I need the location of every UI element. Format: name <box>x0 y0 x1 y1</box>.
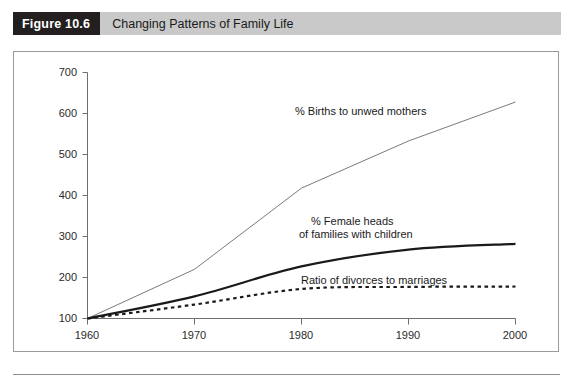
y-tick-label-300: 300 <box>59 230 77 242</box>
x-tick-label-2000: 2000 <box>503 329 527 341</box>
series-annotation-female-heads-line1: % Female heads <box>311 215 394 227</box>
figure-caption-title: Changing Patterns of Family Life <box>100 12 293 35</box>
x-axis-ticks <box>88 319 516 325</box>
footer-rule <box>13 374 560 375</box>
series-annotation-female-heads-line2: of families with children <box>299 228 413 240</box>
y-tick-label-500: 500 <box>59 148 77 160</box>
figure-number-tag: Figure 10.6 <box>13 12 100 35</box>
figure-caption-bar: Figure 10.6 Changing Patterns of Family … <box>13 12 561 35</box>
series-annotation-unwed-mothers: % Births to unwed mothers <box>295 105 427 117</box>
y-tick-label-400: 400 <box>59 189 77 201</box>
x-tick-label-1980: 1980 <box>289 329 313 341</box>
series-annotation-divorce-ratio: Ratio of divorces to marriages <box>301 274 448 286</box>
line-chart: 700 600 500 400 300 200 100 1960 1970 19… <box>14 52 558 351</box>
x-tick-label-1990: 1990 <box>396 329 420 341</box>
y-tick-label-600: 600 <box>59 107 77 119</box>
chart-frame: 700 600 500 400 300 200 100 1960 1970 19… <box>13 51 559 352</box>
y-axis-ticks <box>83 73 88 319</box>
x-tick-label-1970: 1970 <box>182 329 206 341</box>
x-tick-label-1960: 1960 <box>75 329 99 341</box>
y-tick-label-100: 100 <box>59 312 77 324</box>
y-tick-label-200: 200 <box>59 271 77 283</box>
series-line-divorce-ratio <box>88 287 516 319</box>
y-tick-label-700: 700 <box>59 66 77 78</box>
